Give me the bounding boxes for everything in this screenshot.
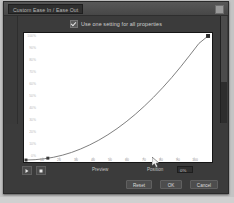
ease-curve-path	[26, 36, 208, 160]
transport-bar: Preview Position 0%	[19, 164, 215, 175]
stop-icon	[40, 169, 43, 172]
play-icon	[26, 169, 29, 173]
play-button[interactable]	[22, 166, 32, 175]
footer-buttons: Reset OK Cancel	[4, 178, 228, 193]
title-bar[interactable]: Custom Ease In / Ease Out	[4, 2, 228, 16]
curve-svg	[24, 33, 212, 162]
mid-handle	[46, 157, 49, 160]
close-icon[interactable]	[215, 5, 224, 14]
position-value[interactable]: 0%	[177, 166, 193, 173]
vertical-scrollbar[interactable]	[220, 16, 227, 123]
custom-ease-dialog: Custom Ease In / Ease Out Use one settin…	[3, 1, 229, 194]
use-one-setting-checkbox[interactable]	[70, 20, 78, 28]
reset-button[interactable]: Reset	[126, 180, 152, 189]
cancel-button[interactable]: Cancel	[190, 180, 218, 189]
start-handle	[24, 159, 27, 162]
scrollbar-thumb[interactable]	[221, 16, 227, 82]
left-panel-strip	[5, 16, 18, 124]
use-one-setting-label: Use one setting for all properties	[81, 21, 162, 27]
end-handle	[206, 34, 210, 38]
ok-button[interactable]: OK	[160, 180, 182, 189]
preview-label: Preview	[92, 166, 108, 173]
x-axis-ticks	[43, 157, 194, 160]
use-one-setting-row[interactable]: Use one setting for all properties	[4, 17, 228, 31]
ease-curve-plot[interactable]	[23, 32, 213, 163]
window-title: Custom Ease In / Ease Out	[8, 4, 83, 14]
mouse-cursor-icon	[152, 157, 161, 168]
stop-button[interactable]	[36, 166, 46, 175]
screen: Custom Ease In / Ease Out Use one settin…	[0, 0, 234, 203]
